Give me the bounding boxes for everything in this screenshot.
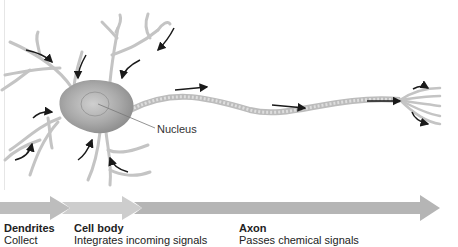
dendrites-description: Collect <box>4 234 55 246</box>
dendrites-title: Dendrites <box>4 222 55 234</box>
neuron-illustration <box>0 0 458 247</box>
axon-label: Axon Passes chemical signals <box>239 222 359 246</box>
dendrites-band <box>0 196 70 220</box>
axon-description: Passes chemical signals <box>239 234 359 246</box>
axon-band <box>134 195 440 221</box>
cell-body <box>59 80 133 133</box>
axon-terminals <box>400 88 440 124</box>
neuron-diagram: Nucleus Dendrites Collect Cell body Inte… <box>0 0 458 247</box>
axon <box>130 97 400 113</box>
cell-body-label: Cell body Integrates incoming signals <box>74 222 207 246</box>
dendrites-label: Dendrites Collect <box>4 222 55 246</box>
cell-body-band <box>62 196 142 220</box>
cell-body-title: Cell body <box>74 222 207 234</box>
axon-title: Axon <box>239 222 359 234</box>
cell-body-description: Integrates incoming signals <box>74 234 207 246</box>
nucleus-label: Nucleus <box>157 123 197 135</box>
region-arrow-band <box>0 195 440 221</box>
